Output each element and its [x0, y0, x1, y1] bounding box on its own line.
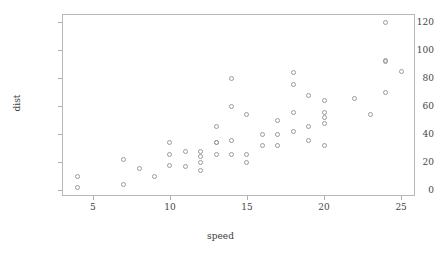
x-tick-mark: [401, 196, 402, 200]
y-tick-label: 20: [387, 158, 441, 167]
x-axis-title: speed: [0, 231, 441, 241]
x-tick-label: 10: [164, 203, 175, 212]
y-tick-mark: [58, 134, 62, 135]
y-tick-mark: [58, 106, 62, 107]
y-tick-label: 120: [387, 18, 441, 27]
x-tick-mark: [247, 196, 248, 200]
y-axis-title: dist: [12, 73, 22, 133]
y-tick-mark: [58, 22, 62, 23]
y-tick-label: 0: [387, 186, 441, 195]
y-tick-label: 100: [387, 46, 441, 55]
x-tick-label: 25: [395, 203, 406, 212]
y-tick-mark: [58, 190, 62, 191]
x-tick-mark: [170, 196, 171, 200]
chart-container: 020406080100120 510152025 speed dist: [0, 0, 441, 255]
y-tick-mark: [58, 78, 62, 79]
plot-frame: [62, 14, 415, 196]
x-tick-label: 20: [318, 203, 329, 212]
x-tick-mark: [93, 196, 94, 200]
y-tick-label: 80: [387, 74, 441, 83]
y-tick-label: 60: [387, 102, 441, 111]
y-tick-mark: [58, 50, 62, 51]
x-tick-mark: [324, 196, 325, 200]
y-tick-label: 40: [387, 130, 441, 139]
x-tick-label: 5: [90, 203, 96, 212]
x-tick-label: 15: [241, 203, 252, 212]
y-tick-mark: [58, 162, 62, 163]
